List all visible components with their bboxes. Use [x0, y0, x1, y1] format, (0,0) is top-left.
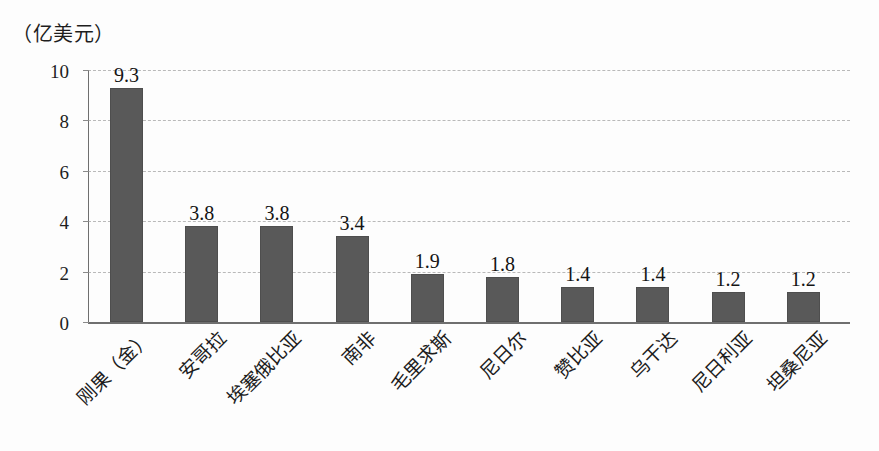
bar: 1.4: [561, 287, 594, 322]
bar-value-label: 3.8: [189, 203, 214, 223]
bar: 1.2: [712, 292, 745, 322]
y-axis-tick-label: 0: [60, 314, 70, 333]
bar: 1.2: [787, 292, 820, 322]
y-axis-tick: 8: [83, 120, 89, 121]
bar-value-label: 9.3: [114, 65, 139, 85]
y-axis-tick: 6: [83, 171, 89, 172]
x-axis-category-label: 尼日利亚: [688, 328, 755, 395]
y-axis-line: [88, 70, 89, 322]
y-axis-tick-label: 4: [60, 213, 70, 232]
bar-value-label: 1.4: [565, 264, 590, 284]
y-axis-tick: 4: [83, 221, 89, 222]
x-axis-category-label: 安哥拉: [175, 328, 229, 382]
y-axis-tick: 10: [83, 70, 89, 71]
x-axis-category-label: 毛里求斯: [388, 328, 455, 395]
y-axis-tick-label: 2: [60, 263, 70, 282]
gridline: [88, 70, 850, 71]
plot-area: 1086420 9.33.83.83.41.91.81.41.41.21.2 刚…: [88, 70, 850, 322]
bar: 3.8: [260, 226, 293, 322]
gridline: [88, 171, 850, 172]
bar: 9.3: [110, 88, 143, 322]
bar: 1.8: [486, 277, 519, 322]
y-axis-tick-label: 10: [50, 62, 69, 81]
y-axis-tick: 2: [83, 272, 89, 273]
y-axis-tick-label: 8: [60, 112, 70, 131]
x-axis-category-label: 南非: [339, 328, 379, 368]
y-axis-tick: 0: [83, 322, 89, 323]
x-axis-category-label: 尼日尔: [476, 328, 530, 382]
x-axis-category-label: 乌干达: [627, 328, 681, 382]
bar-value-label: 1.2: [791, 269, 816, 289]
bar-value-label: 3.4: [340, 213, 365, 233]
x-axis-line: [88, 322, 850, 324]
x-axis-category-label: 坦桑尼亚: [764, 328, 831, 395]
bar-value-label: 1.8: [490, 254, 515, 274]
bar-value-label: 3.8: [264, 203, 289, 223]
x-axis-category-label: 刚果（金）: [73, 328, 154, 409]
y-axis-unit-caption: （亿美元）: [12, 24, 115, 44]
bar-value-label: 1.4: [640, 264, 665, 284]
bar-value-label: 1.9: [415, 251, 440, 271]
bar-value-label: 1.2: [716, 269, 741, 289]
bar: 1.4: [636, 287, 669, 322]
gridline: [88, 120, 850, 121]
bar: 3.8: [185, 226, 218, 322]
x-axis-category-label: 埃塞俄比亚: [224, 328, 305, 409]
bar: 3.4: [336, 236, 369, 322]
bar: 1.9: [411, 274, 444, 322]
bar-chart-figure: （亿美元） 1086420 9.33.83.83.41.91.81.41.41.…: [0, 0, 879, 451]
x-axis-category-label: 赞比亚: [551, 328, 605, 382]
y-axis-tick-label: 6: [60, 162, 70, 181]
